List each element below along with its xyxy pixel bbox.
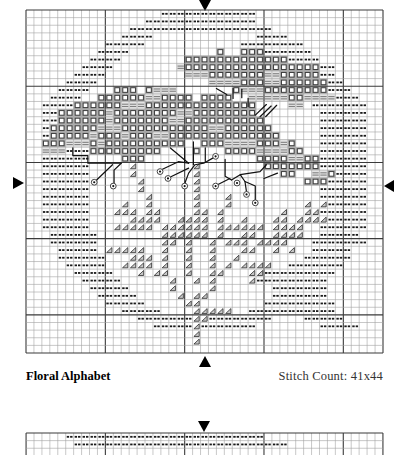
stitch-dark-dots <box>321 249 327 251</box>
stitch-square <box>216 132 224 140</box>
stitch-dark-dots <box>241 444 247 446</box>
stitch-square <box>280 162 288 170</box>
stitch-square <box>82 132 90 140</box>
stitch-dark-dots <box>51 165 57 167</box>
stitch-triangle <box>138 217 143 222</box>
stitch-triangle <box>123 202 128 207</box>
stitch-dark-dots <box>297 280 303 282</box>
stitch-triangle <box>297 232 302 237</box>
stitch-dark-dots <box>360 226 366 228</box>
stitch-dark-dots <box>217 13 223 15</box>
stitch-square <box>304 162 312 170</box>
stitch-square <box>232 101 240 109</box>
stitch-dark-dots <box>202 444 208 446</box>
stitch-dark-dots <box>352 142 358 144</box>
stitch-dark-dots <box>360 242 366 244</box>
stitch-dark-dots <box>328 219 334 221</box>
stitch-square <box>74 132 82 140</box>
stitch-square <box>248 79 256 87</box>
stitch-triangle <box>242 232 247 237</box>
stitch-dark-dots <box>51 158 57 160</box>
stitch-dark-dots <box>90 272 96 274</box>
stitch-square <box>208 117 216 125</box>
stitch-dark-dots <box>67 89 73 91</box>
center-marker-bottom-icon <box>199 356 211 367</box>
stitch-dark-dots <box>162 436 168 438</box>
stitch-dark-dots <box>344 219 350 221</box>
stitch-square <box>145 86 153 94</box>
stitch-double-line <box>224 79 232 87</box>
stitch-triangle <box>194 339 199 344</box>
stitch-square <box>264 155 272 163</box>
backstitch-line <box>114 163 121 184</box>
stitch-triangle <box>321 202 326 207</box>
stitch-dark-dots <box>265 318 271 320</box>
french-knot-icon <box>244 192 250 198</box>
stitch-dark-dots <box>344 135 350 137</box>
stitch-triangle <box>234 225 239 230</box>
stitch-square <box>105 147 113 155</box>
stitch-square <box>161 124 169 132</box>
stitch-dark-dots <box>233 318 239 320</box>
stitch-dark-dots <box>178 444 184 446</box>
stitch-dark-dots <box>360 158 366 160</box>
stitch-dark-dots <box>186 21 192 23</box>
stitch-triangle <box>146 255 151 260</box>
stitch-dark-dots <box>360 173 366 175</box>
stitch-dark-dots <box>289 287 295 289</box>
stitch-square <box>256 155 264 163</box>
stitch-square <box>264 86 272 94</box>
stitch-dark-dots <box>122 444 128 446</box>
stitch-dark-dots <box>328 234 334 236</box>
stitch-double-line <box>232 79 240 87</box>
stitch-square <box>129 94 137 102</box>
stitch-dark-dots <box>360 196 366 198</box>
stitch-dark-dots <box>297 303 303 305</box>
stitch-double-line <box>256 94 264 102</box>
stitch-dark-dots <box>67 97 73 99</box>
stitch-dark-dots <box>336 158 342 160</box>
stitch-square <box>58 140 66 148</box>
stitch-square <box>208 56 216 64</box>
stitch-dark-dots <box>249 436 255 438</box>
stitch-dark-dots <box>67 104 73 106</box>
french-knot-icon <box>165 176 171 182</box>
stitch-dark-dots <box>336 120 342 122</box>
stitch-square <box>129 132 137 140</box>
stitch-double-line <box>272 79 280 87</box>
stitch-dark-dots <box>328 249 334 251</box>
stitch-square <box>185 124 193 132</box>
stitch-dark-dots <box>154 325 160 327</box>
stitch-square <box>312 71 320 79</box>
stitch-dark-dots <box>321 120 327 122</box>
stitch-dark-dots <box>83 219 89 221</box>
stitch-dark-dots <box>257 318 263 320</box>
stitch-dark-dots <box>106 444 112 446</box>
stitch-dark-dots <box>321 165 327 167</box>
stitch-dark-dots <box>265 272 271 274</box>
stitch-dark-dots <box>51 211 57 213</box>
stitch-dark-dots <box>43 120 49 122</box>
stitch-triangle <box>202 293 207 298</box>
stitch-dark-dots <box>328 325 334 327</box>
stitch-double-line <box>216 124 224 132</box>
stitch-dark-dots <box>321 226 327 228</box>
stitch-dark-dots <box>257 28 263 30</box>
stitch-dark-dots <box>352 181 358 183</box>
stitch-dark-dots <box>352 120 358 122</box>
stitch-square <box>201 140 209 148</box>
stitch-triangle <box>186 263 191 268</box>
stitch-dark-dots <box>202 325 208 327</box>
stitch-square <box>240 63 248 71</box>
stitch-triangle <box>210 309 215 314</box>
stitch-triangle <box>194 293 199 298</box>
stitch-triangle <box>281 225 286 230</box>
stitch-square <box>208 132 216 140</box>
stitch-dark-dots <box>297 295 303 297</box>
stitch-triangle <box>226 240 231 245</box>
stitch-square <box>193 132 201 140</box>
stitch-dark-dots <box>344 173 350 175</box>
stitch-square <box>272 86 280 94</box>
stitch-triangle <box>210 255 215 260</box>
stitch-dark-dots <box>75 150 81 152</box>
